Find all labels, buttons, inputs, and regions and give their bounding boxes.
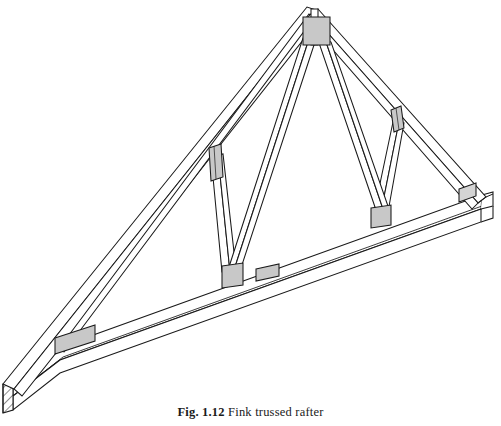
right-rafter-node-plate [391, 106, 404, 132]
figure-container: Fig. 1.12 Fink trussed rafter [0, 0, 501, 426]
figure-label: Fig. 1.12 [177, 405, 224, 419]
fink-trussed-rafter-drawing [0, 0, 501, 426]
right-bottom-node-plate [371, 205, 391, 228]
left-bottom-node-plate [222, 263, 243, 288]
figure-caption: Fig. 1.12 Fink trussed rafter [0, 405, 501, 420]
apex-plate [303, 17, 330, 45]
figure-title: Fink trussed rafter [228, 405, 323, 419]
left-rafter-node-plate [209, 144, 223, 181]
